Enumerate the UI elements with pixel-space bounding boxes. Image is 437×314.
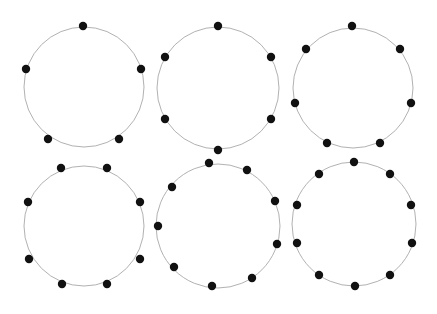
point-dot — [25, 255, 33, 263]
point-dot — [407, 99, 415, 107]
point-dot — [350, 158, 358, 166]
point-dot — [293, 239, 301, 247]
circle-6-points — [157, 22, 279, 154]
point-dot — [248, 274, 256, 282]
point-dot — [115, 135, 123, 143]
point-dot — [214, 146, 222, 154]
point-dot — [136, 198, 144, 206]
circle-8-points — [24, 164, 144, 288]
circle-outline — [24, 27, 144, 147]
point-dot — [205, 159, 213, 167]
point-dot — [302, 45, 310, 53]
circle-7-points — [291, 22, 415, 148]
point-dot — [154, 222, 162, 230]
point-dot — [58, 280, 66, 288]
point-dot — [243, 166, 251, 174]
point-dot — [214, 22, 222, 30]
point-dot — [271, 197, 279, 205]
point-dot — [293, 201, 301, 209]
point-dot — [273, 240, 281, 248]
point-dot — [103, 280, 111, 288]
point-dot — [161, 53, 169, 61]
point-dot — [161, 115, 169, 123]
circle-5-points — [22, 22, 145, 147]
point-dot — [323, 139, 331, 147]
point-dot — [315, 170, 323, 178]
point-dot — [407, 201, 415, 209]
point-dot — [408, 239, 416, 247]
point-dot — [291, 99, 299, 107]
circle-outline — [293, 28, 413, 148]
circle-outline — [24, 166, 144, 286]
point-dot — [168, 183, 176, 191]
circle-outline — [292, 162, 416, 286]
point-dot — [208, 282, 216, 290]
point-dot — [103, 164, 111, 172]
point-dot — [22, 65, 30, 73]
circle-10-points — [292, 158, 416, 290]
point-dot — [24, 198, 32, 206]
point-dot — [351, 282, 359, 290]
point-dot — [267, 115, 275, 123]
point-dot — [137, 65, 145, 73]
point-dot — [315, 271, 323, 279]
point-dot — [348, 22, 356, 30]
point-dot — [386, 170, 394, 178]
circle-9-points — [154, 159, 281, 290]
point-dot — [136, 255, 144, 263]
point-dot — [267, 53, 275, 61]
circle-points-diagram — [0, 0, 437, 314]
point-dot — [170, 263, 178, 271]
diagram-svg — [0, 0, 437, 314]
point-dot — [376, 139, 384, 147]
point-dot — [44, 135, 52, 143]
point-dot — [386, 271, 394, 279]
circle-outline — [157, 27, 279, 149]
point-dot — [57, 164, 65, 172]
point-dot — [79, 22, 87, 30]
point-dot — [396, 45, 404, 53]
